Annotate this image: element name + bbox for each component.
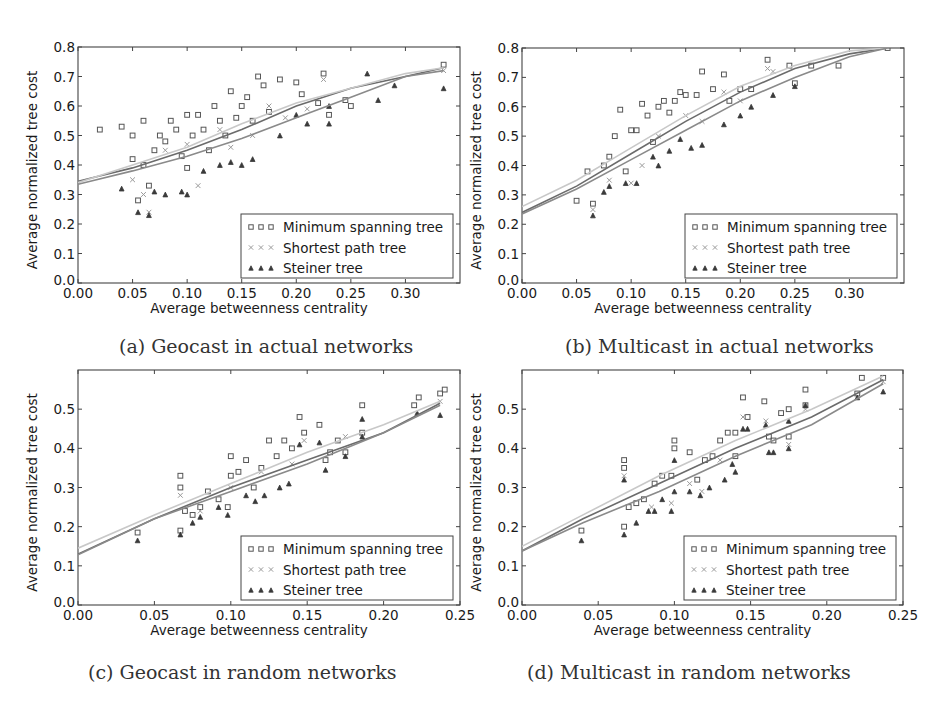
- x-tick-label: 0.25: [888, 607, 918, 623]
- legend-entry: Steiner tree: [283, 260, 363, 276]
- legend-entry: Minimum spanning tree: [283, 219, 443, 235]
- y-tick-label: 0.3: [498, 480, 519, 496]
- caption-a: (a) Geocast in actual networks: [119, 335, 413, 357]
- x-axis-label: Average betweenness centrality: [594, 300, 812, 316]
- caption-d: (d) Multicast in random networks: [527, 661, 851, 683]
- x-tick-label: 0.25: [445, 607, 475, 623]
- legend: Minimum spanning treeShortest path treeS…: [684, 536, 896, 600]
- legend-entry: Shortest path tree: [727, 240, 850, 256]
- y-tick-label: 0.2: [54, 519, 75, 535]
- y-tick-label: 0.4: [498, 440, 519, 456]
- y-tick-label: 0.4: [54, 157, 75, 173]
- y-tick-label: 0.5: [498, 128, 519, 144]
- x-tick-label: 0.25: [780, 285, 810, 301]
- legend: Minimum spanning treeShortest path treeS…: [241, 214, 453, 278]
- x-tick-label: 0.30: [834, 285, 864, 301]
- x-tick-label: 0.15: [671, 285, 701, 301]
- legend: Minimum spanning treeShortest path treeS…: [685, 214, 897, 278]
- legend: Minimum spanning treeShortest path treeS…: [241, 536, 453, 600]
- y-tick-label: 0.7: [54, 69, 75, 85]
- legend-entry: Minimum spanning tree: [726, 541, 886, 557]
- x-tick-label: 0.15: [292, 607, 322, 623]
- x-tick-label: 0.05: [583, 607, 613, 623]
- x-axis-label: Average betweenness centrality: [594, 622, 812, 638]
- y-tick-label: 0.6: [498, 99, 519, 115]
- legend-entry: Steiner tree: [283, 582, 363, 598]
- y-axis-label: Average normalized tree cost: [468, 393, 484, 592]
- y-tick-label: 0.8: [54, 39, 75, 55]
- x-tick-label: 0.25: [336, 285, 366, 301]
- y-tick-label: 0.2: [54, 216, 75, 232]
- y-tick-label: 0.6: [54, 98, 75, 114]
- x-tick-label: 0.20: [812, 607, 842, 623]
- x-tick-label: 0.05: [139, 607, 169, 623]
- legend-entry: Shortest path tree: [283, 240, 406, 256]
- y-axis-label: Average normalized tree cost: [468, 71, 484, 270]
- y-tick-label: 0.1: [54, 558, 75, 574]
- y-tick-label: 0.0: [498, 272, 519, 288]
- legend-entry: Minimum spanning tree: [727, 219, 887, 235]
- x-tick-label: 0.10: [216, 607, 246, 623]
- chart-panel-d: 0.000.050.100.150.200.250.00.10.20.30.40…: [468, 370, 918, 638]
- caption-b: (b) Multicast in actual networks: [565, 335, 874, 357]
- y-tick-label: 0.2: [498, 216, 519, 232]
- legend-entry: Minimum spanning tree: [283, 541, 443, 557]
- x-tick-label: 0.20: [725, 285, 755, 301]
- y-axis-label: Average normalized tree cost: [24, 393, 40, 592]
- y-tick-label: 0.0: [498, 594, 519, 610]
- y-tick-label: 0.1: [498, 246, 519, 262]
- y-tick-label: 0.3: [498, 187, 519, 203]
- x-tick-label: 0.20: [369, 607, 399, 623]
- y-tick-label: 0.5: [54, 128, 75, 144]
- caption-c: (c) Geocast in random networks: [88, 661, 397, 683]
- y-tick-label: 0.1: [498, 558, 519, 574]
- y-tick-label: 0.7: [498, 69, 519, 85]
- x-tick-label: 0.15: [227, 285, 257, 301]
- y-tick-label: 0.0: [54, 272, 75, 288]
- x-tick-label: 0.05: [118, 285, 148, 301]
- x-tick-label: 0.10: [172, 285, 202, 301]
- chart-panel-b: 0.000.050.100.150.200.250.300.00.10.20.3…: [468, 40, 904, 316]
- y-tick-label: 0.4: [498, 158, 519, 174]
- x-tick-label: 0.30: [390, 285, 420, 301]
- legend-entry: Steiner tree: [726, 582, 806, 598]
- x-tick-label: 0.20: [281, 285, 311, 301]
- legend-entry: Shortest path tree: [726, 562, 849, 578]
- chart-panel-c: 0.000.050.100.150.200.250.00.10.20.30.40…: [24, 370, 475, 638]
- chart-panel-a: 0.000.050.100.150.200.250.300.00.10.20.3…: [24, 39, 460, 316]
- y-tick-label: 0.4: [54, 440, 75, 456]
- x-axis-label: Average betweenness centrality: [150, 622, 368, 638]
- x-tick-label: 0.15: [736, 607, 766, 623]
- y-tick-label: 0.5: [498, 401, 519, 417]
- y-tick-label: 0.0: [54, 594, 75, 610]
- y-tick-label: 0.1: [54, 246, 75, 262]
- y-tick-label: 0.2: [498, 519, 519, 535]
- y-tick-label: 0.5: [54, 401, 75, 417]
- x-tick-label: 0.05: [562, 285, 592, 301]
- y-tick-label: 0.8: [498, 40, 519, 56]
- y-tick-label: 0.3: [54, 187, 75, 203]
- x-tick-label: 0.10: [659, 607, 689, 623]
- legend-entry: Steiner tree: [727, 260, 807, 276]
- y-axis-label: Average normalized tree cost: [24, 71, 40, 270]
- x-tick-label: 0.10: [616, 285, 646, 301]
- legend-entry: Shortest path tree: [283, 562, 406, 578]
- y-tick-label: 0.3: [54, 480, 75, 496]
- x-axis-label: Average betweenness centrality: [150, 300, 368, 316]
